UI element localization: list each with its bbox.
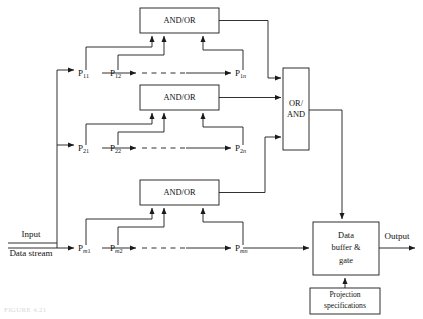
- wire-p22-to-andor2: [118, 113, 164, 145]
- data-stream-label: Data stream: [9, 248, 52, 258]
- p-m1-sub-col: 1: [87, 247, 90, 254]
- wire-pmn-to-andor3: [203, 208, 243, 245]
- p-11-sub-col: 1: [86, 72, 89, 79]
- svg-text:P11: P11: [78, 68, 89, 79]
- svg-text:Pm2: Pm2: [110, 243, 123, 254]
- svg-text:P21: P21: [78, 143, 89, 154]
- or-and-box-line1: OR/: [289, 99, 304, 108]
- projection-specifications-line2: specifications: [324, 301, 366, 310]
- input-label: Input: [22, 229, 41, 239]
- p-12-sub-col: 2: [118, 72, 121, 79]
- processor-node-p-2n: P2n: [235, 143, 246, 154]
- or-and-box-line2: AND: [287, 110, 305, 119]
- data-buffer-gate-line3: gate: [339, 256, 353, 265]
- svg-text:P22: P22: [110, 143, 121, 154]
- wire-andor3-to-orand: [219, 137, 281, 193]
- svg-text:P2n: P2n: [235, 143, 246, 154]
- processor-node-p-m1: Pm1: [78, 243, 91, 254]
- wire-andor1-to-orand: [219, 21, 281, 79]
- p-2n-sub-col: n: [243, 147, 246, 154]
- and-or-box-1-label: AND/OR: [163, 16, 196, 25]
- data-buffer-gate-box: Data buffer & gate: [313, 222, 379, 275]
- wire-p12-to-andor1: [118, 36, 164, 70]
- figure-caption: FIGURE 4.21: [4, 306, 47, 314]
- block-diagram-canvas: AND/OR AND/OR AND/OR: [0, 0, 423, 319]
- wire-pm1-to-andor3: [86, 208, 152, 245]
- p-21-sub-col: 1: [86, 147, 89, 154]
- processor-node-p-22: P22: [110, 143, 121, 154]
- or-and-box: OR/ AND: [283, 68, 309, 150]
- wire-orand-to-buffer: [309, 110, 342, 219]
- output-label: Output: [384, 231, 410, 241]
- projection-specifications-line1: Projection: [329, 290, 360, 299]
- processor-node-p-1n: P1n: [235, 68, 246, 79]
- p-22-sub-col: 2: [118, 147, 121, 154]
- svg-text:Pmn: Pmn: [235, 243, 248, 254]
- svg-text:P12: P12: [110, 68, 121, 79]
- processor-node-p-21: P21: [78, 143, 89, 154]
- wire-p11-to-andor1: [86, 36, 152, 70]
- svg-text:Pm1: Pm1: [78, 243, 91, 254]
- wire-p21-to-andor2: [86, 113, 152, 145]
- p-1n-sub-col: n: [243, 72, 246, 79]
- figure-root: AND/OR AND/OR AND/OR: [0, 0, 423, 319]
- data-buffer-gate-line2: buffer &: [332, 243, 361, 252]
- svg-text:P1n: P1n: [235, 68, 246, 79]
- p-m2-sub-col: 2: [119, 247, 122, 254]
- data-buffer-gate-line1: Data: [338, 231, 354, 240]
- and-or-box-1: AND/OR: [140, 8, 219, 33]
- and-or-box-2-label: AND/OR: [163, 93, 196, 102]
- processor-node-p-m2: Pm2: [110, 243, 123, 254]
- and-or-box-2: AND/OR: [140, 85, 219, 110]
- p-mn-sub-col: n: [244, 247, 247, 254]
- processor-node-p-mn: Pmn: [235, 243, 248, 254]
- and-or-box-3: AND/OR: [140, 180, 219, 205]
- wire-pm2-to-andor3: [118, 208, 164, 245]
- wire-p1n-to-andor1: [203, 36, 243, 70]
- and-or-box-3-label: AND/OR: [163, 188, 196, 197]
- processor-node-p-11: P11: [78, 68, 89, 79]
- processor-node-p-12: P12: [110, 68, 121, 79]
- wire-p2n-to-andor2: [203, 113, 243, 145]
- projection-specifications-box: Projection specifications: [310, 288, 380, 314]
